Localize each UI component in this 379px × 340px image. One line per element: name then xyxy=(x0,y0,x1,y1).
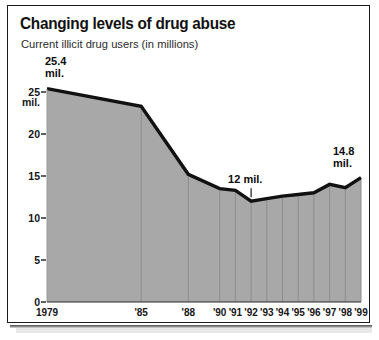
annotation-unit: mil. xyxy=(333,157,354,170)
x-axis-label: '99 xyxy=(354,307,368,318)
page-shadow-light xyxy=(16,328,372,333)
y-axis-label: 0 xyxy=(14,296,40,308)
chart-title: Changing levels of drug abuse xyxy=(20,14,235,33)
y-axis-label: 15 xyxy=(14,170,40,182)
x-axis-label: '93 xyxy=(260,307,274,318)
x-axis-label: '90 xyxy=(213,307,227,318)
chart-figure: Changing levels of drug abuse Current il… xyxy=(0,0,379,340)
x-axis-label: '85 xyxy=(134,307,148,318)
data-annotation-start: 25.4mil. xyxy=(45,55,66,80)
annotation-unit: mil. xyxy=(45,67,66,80)
chart-frame xyxy=(7,5,370,323)
x-axis-label: '91 xyxy=(229,307,243,318)
x-axis-label: '95 xyxy=(291,307,305,318)
chart-subtitle: Current illicit drug users (in millions) xyxy=(21,38,198,50)
data-annotation-minimum: 12 mil. xyxy=(228,173,262,186)
annotation-value: 12 mil. xyxy=(228,173,262,186)
x-axis-label: '98 xyxy=(339,307,353,318)
y-axis-unit-label: mil. xyxy=(14,96,40,108)
x-axis-label: '94 xyxy=(276,307,290,318)
data-annotation-end: 14.8mil. xyxy=(333,145,354,170)
x-axis-label: '88 xyxy=(182,307,196,318)
annotation-value: 25.4 xyxy=(45,55,66,68)
annotation-value: 14.8 xyxy=(333,145,354,158)
y-axis-label: 10 xyxy=(14,212,40,224)
x-axis-label: '96 xyxy=(307,307,321,318)
y-axis-label: 5 xyxy=(14,254,40,266)
x-axis-label: 1979 xyxy=(36,307,58,318)
y-axis-label: 20 xyxy=(14,128,40,140)
x-axis-label: '97 xyxy=(323,307,337,318)
x-axis-label: '92 xyxy=(244,307,258,318)
